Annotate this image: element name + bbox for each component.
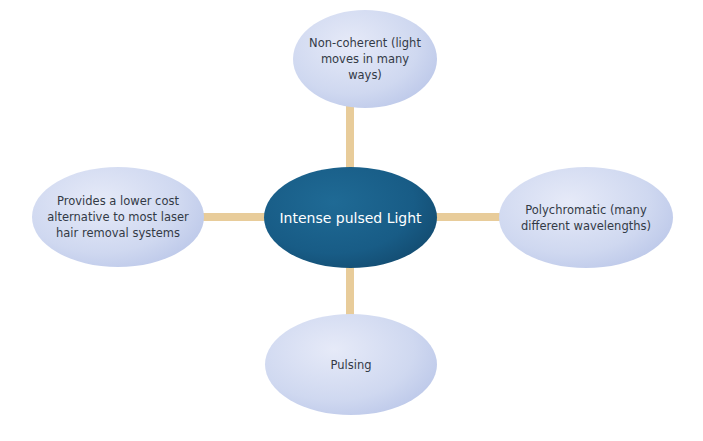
connector-right [434,213,502,221]
node-bottom: Pulsing [265,314,437,415]
node-left: Provides a lower cost alternative to mos… [32,167,204,267]
node-right: Polychromatic (many different wavelength… [499,167,673,268]
node-left-label: Provides a lower cost alternative to mos… [44,193,192,241]
connector-left [200,213,268,221]
connector-top [346,105,354,170]
node-right-label: Polychromatic (many different wavelength… [521,202,651,234]
node-top-label: Non-coherent (light moves in many ways) [308,35,423,83]
node-top: Non-coherent (light moves in many ways) [293,10,437,108]
connector-bottom [346,265,354,317]
node-center-label: Intense pulsed Light [279,210,421,226]
node-center: Intense pulsed Light [264,167,437,268]
node-bottom-label: Pulsing [331,357,372,373]
